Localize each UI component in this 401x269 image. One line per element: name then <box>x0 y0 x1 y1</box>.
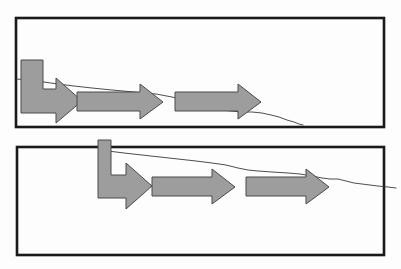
panel-bottom-straight-arrow-2 <box>246 169 329 204</box>
panel-top <box>16 18 384 127</box>
panel-top-elbow-arrow <box>21 60 82 123</box>
panel-bottom-frame <box>17 147 384 255</box>
diagram-canvas <box>0 0 401 269</box>
diagram-svg <box>0 0 401 269</box>
panel-top-straight-arrow-2 <box>175 84 261 119</box>
panel-bottom <box>17 140 396 255</box>
panel-bottom-elbow-arrow <box>98 140 152 209</box>
panel-bottom-straight-arrow-1 <box>152 169 235 204</box>
panel-top-straight-arrow-1 <box>77 84 163 119</box>
